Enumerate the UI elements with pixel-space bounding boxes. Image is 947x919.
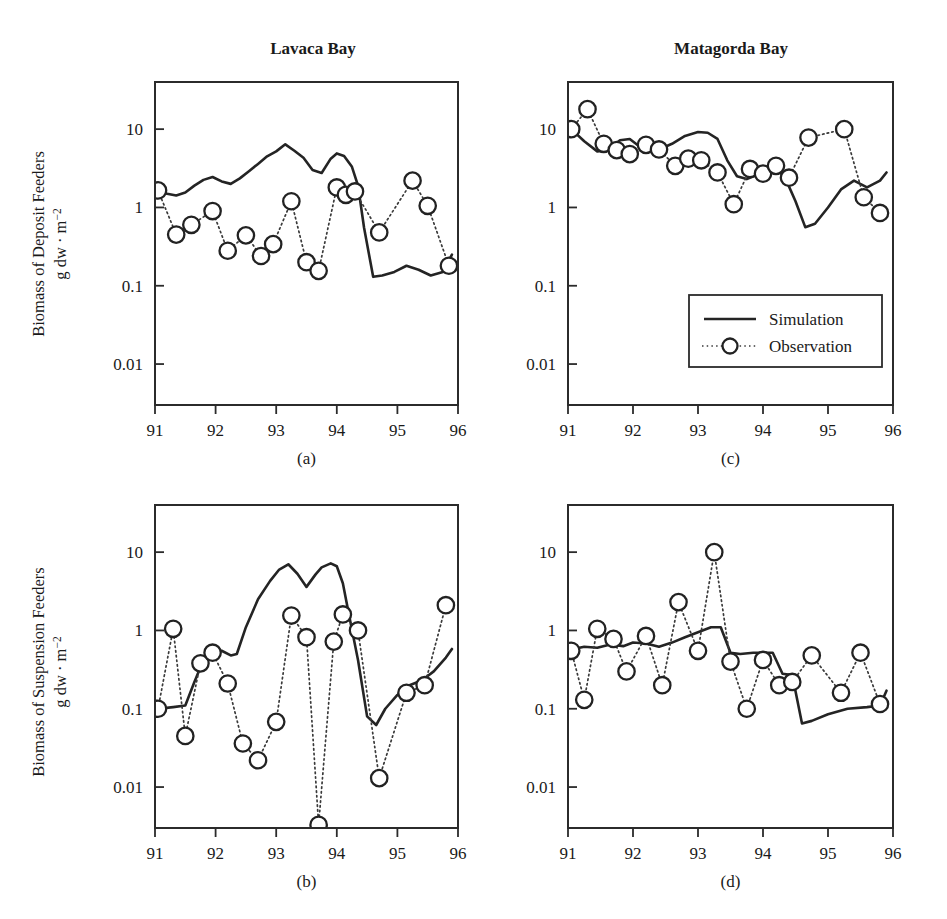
- chart-legend: Simulation Observation: [689, 295, 882, 367]
- observation-marker: [268, 714, 284, 730]
- x-tick-label: 93: [268, 844, 285, 863]
- x-tick-label: 93: [690, 844, 707, 863]
- x-tick-label: 95: [820, 844, 837, 863]
- x-tick-label: 94: [328, 844, 346, 863]
- observation-marker: [654, 677, 670, 693]
- chart-panel-d: 1010.10.01919293949596(d): [526, 505, 901, 891]
- x-tick-label: 96: [885, 421, 902, 440]
- observation-marker: [283, 607, 299, 623]
- observation-marker: [576, 692, 592, 708]
- observation-marker: [371, 224, 387, 240]
- observation-marker: [690, 643, 706, 659]
- observation-marker: [347, 183, 363, 199]
- observation-marker: [638, 628, 654, 644]
- plot-frame: [155, 82, 458, 405]
- x-tick-label: 92: [207, 844, 224, 863]
- x-tick-label: 96: [450, 421, 467, 440]
- observation-marker: [420, 198, 436, 214]
- observation-marker: [622, 146, 638, 162]
- observation-marker: [800, 129, 816, 145]
- y-tick-label: 1: [135, 198, 144, 217]
- observation-marker: [250, 752, 266, 768]
- observation-marker: [872, 696, 888, 712]
- observation-marker: [310, 263, 326, 279]
- observation-marker: [398, 685, 414, 701]
- series-layer: [150, 144, 457, 279]
- y-tick-label: 0.1: [122, 277, 143, 296]
- y-tick-label: 10: [126, 120, 143, 139]
- observation-marker: [833, 685, 849, 701]
- chart-panel-a: 1010.10.01919293949596(a): [113, 82, 466, 468]
- observation-marker: [265, 236, 281, 252]
- legend-box: [689, 295, 882, 367]
- column-title-lavaca-bay: Lavaca Bay: [270, 39, 356, 58]
- observation-marker: [781, 169, 797, 185]
- y-tick-label: 0.01: [526, 355, 556, 374]
- observation-marker: [589, 621, 605, 637]
- x-tick-label: 91: [147, 844, 164, 863]
- observation-marker: [605, 631, 621, 647]
- y-tick-label: 10: [126, 543, 143, 562]
- observation-marker: [204, 203, 220, 219]
- x-tick-label: 93: [690, 421, 707, 440]
- observation-marker: [438, 597, 454, 613]
- observation-marker: [404, 172, 420, 188]
- observation-marker: [768, 158, 784, 174]
- observation-marker: [298, 629, 314, 645]
- observation-marker: [235, 735, 251, 751]
- panel-letter: (b): [297, 872, 317, 891]
- observation-marker: [441, 258, 457, 274]
- chart-panel-b: 1010.10.01919293949596(b): [113, 505, 466, 891]
- legend-observation-marker: [723, 339, 738, 354]
- y-tick-label: 10: [539, 120, 556, 139]
- observation-marker: [150, 182, 166, 198]
- y-tick-label: 1: [548, 198, 557, 217]
- observation-marker: [168, 226, 184, 242]
- series-layer: [150, 563, 454, 833]
- panel-letter: (a): [297, 449, 316, 468]
- observation-marker: [238, 227, 254, 243]
- y-tick-label: 0.01: [113, 355, 143, 374]
- observation-marker: [804, 647, 820, 663]
- x-tick-label: 95: [389, 421, 406, 440]
- y-axis-title-deposit: Biomass of Deposit Feeders g dw · m−2: [29, 151, 70, 337]
- y-tick-label: 0.01: [526, 778, 556, 797]
- observation-marker: [836, 121, 852, 137]
- x-tick-label: 92: [207, 421, 224, 440]
- x-tick-label: 95: [820, 421, 837, 440]
- panel-letter: (c): [721, 449, 740, 468]
- y-tick-label: 0.1: [535, 700, 556, 719]
- observation-marker: [852, 644, 868, 660]
- figure-root: Lavaca Bay Matagorda Bay Biomass of Depo…: [0, 0, 947, 919]
- panels-layer: 1010.10.01919293949596(a)1010.10.0191929…: [113, 82, 901, 891]
- observation-marker: [326, 633, 342, 649]
- column-title-matagorda-bay: Matagorda Bay: [674, 39, 788, 58]
- y-tick-label: 1: [548, 621, 557, 640]
- observation-marker: [739, 701, 755, 717]
- observation-marker: [872, 205, 888, 221]
- multi-panel-chart: Lavaca Bay Matagorda Bay Biomass of Depo…: [0, 0, 947, 919]
- y-tick-label: 1: [135, 621, 144, 640]
- x-tick-label: 96: [885, 844, 902, 863]
- observation-line: [571, 552, 880, 709]
- observation-marker: [371, 770, 387, 786]
- series-layer: [563, 101, 888, 227]
- observation-marker: [693, 152, 709, 168]
- y-tick-label: 0.1: [535, 277, 556, 296]
- observation-marker: [755, 652, 771, 668]
- y-axis-title-deposit-line1: Biomass of Deposit Feeders: [29, 151, 48, 337]
- y-axis-title-suspension-line1: Biomass of Suspension Feeders: [29, 567, 48, 776]
- y-tick-label: 10: [539, 543, 556, 562]
- observation-marker: [165, 621, 181, 637]
- y-axis-title-suspension-line2: g dw · m−2: [51, 636, 70, 708]
- y-tick-label: 0.01: [113, 778, 143, 797]
- observation-marker: [784, 674, 800, 690]
- observation-marker: [204, 644, 220, 660]
- y-axis-title-suspension: Biomass of Suspension Feeders g dw · m−2: [29, 567, 70, 776]
- observation-marker: [220, 675, 236, 691]
- panel-letter: (d): [721, 872, 741, 891]
- observation-marker: [220, 243, 236, 259]
- legend-simulation-label: Simulation: [769, 310, 844, 329]
- observation-marker: [563, 121, 579, 137]
- observation-marker: [856, 189, 872, 205]
